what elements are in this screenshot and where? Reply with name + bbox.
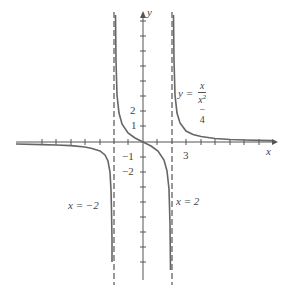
function-denominator: x2 − 4 xyxy=(198,93,206,125)
y-axis-arrow-icon xyxy=(140,11,146,18)
y-tick-label-neg2: −2 xyxy=(122,166,134,177)
denominator-rest: − 4 xyxy=(199,104,205,125)
x-axis-label: x xyxy=(266,146,271,157)
y-tick-label-neg1: −1 xyxy=(122,151,134,162)
asymptote-label-left: x = −2 xyxy=(68,200,99,211)
x-tick-label-3: 3 xyxy=(183,150,189,161)
y-axis-label: y xyxy=(147,7,152,18)
graph-canvas xyxy=(0,0,282,287)
asymptote-label-right: x = 2 xyxy=(176,196,199,207)
function-numerator: x xyxy=(198,81,206,93)
function-lhs: y = xyxy=(178,88,193,99)
y-tick-label-1: 1 xyxy=(131,120,137,131)
curve-right-branch xyxy=(174,15,273,141)
function-fraction: x x2 − 4 xyxy=(198,81,206,125)
x-axis-arrow-icon xyxy=(272,139,278,145)
denominator-exp: 2 xyxy=(203,93,207,101)
y-tick-label-2: 2 xyxy=(130,105,136,116)
